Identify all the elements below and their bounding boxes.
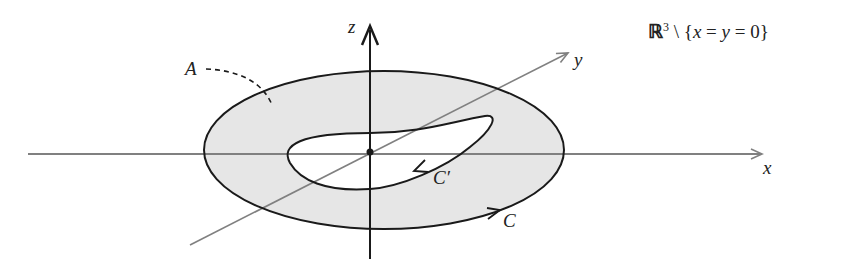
outer-curve-label: C <box>503 211 516 230</box>
var-y: y <box>722 21 730 42</box>
x-axis-label: x <box>763 158 771 177</box>
equals-zero-close: = 0} <box>730 21 769 42</box>
z-axis-label: z <box>348 17 355 36</box>
origin-point <box>367 149 374 156</box>
annulus-label: A <box>185 59 197 78</box>
y-axis-label: y <box>574 50 582 69</box>
inner-curve-label: C′ <box>433 168 450 187</box>
diagram-canvas: z y x A C′ C ℝ3 \ {x = y = 0} <box>0 0 843 271</box>
space-title: ℝ3 \ {x = y = 0} <box>648 21 769 41</box>
annulus-region <box>204 71 564 229</box>
reals-symbol: ℝ <box>648 21 663 42</box>
equals-1: = <box>701 21 721 42</box>
set-minus-open: \ { <box>669 21 693 42</box>
